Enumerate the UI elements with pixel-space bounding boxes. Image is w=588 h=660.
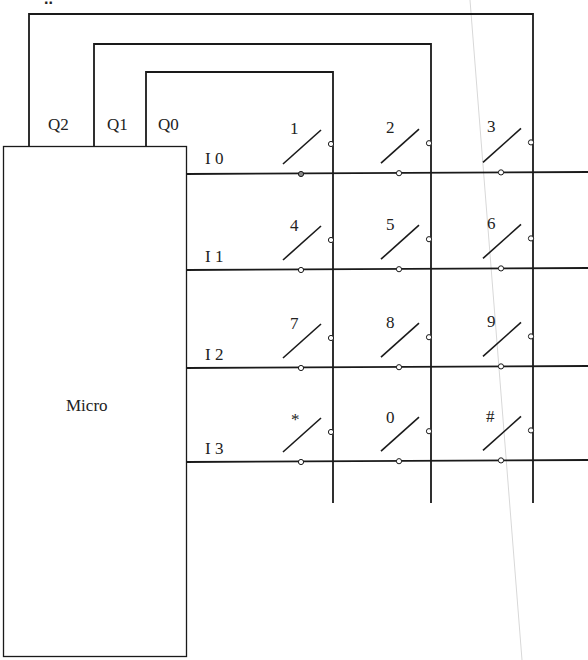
key-label-5: 5 — [386, 216, 395, 233]
row-node — [396, 459, 401, 464]
output-label-q2: Q2 — [48, 116, 69, 133]
contact-node — [328, 429, 333, 434]
contact-node — [328, 335, 333, 340]
output-wire-q0 — [146, 72, 333, 503]
row-node — [498, 364, 503, 369]
row-node — [298, 267, 303, 272]
contact-node — [426, 141, 431, 146]
key-label-2: 2 — [386, 119, 395, 136]
row-node — [498, 458, 503, 463]
key-label-3: 3 — [487, 118, 496, 135]
output-wire-q1 — [94, 44, 431, 503]
input-wire-i1 — [186, 268, 588, 270]
contact-node — [528, 428, 533, 433]
key-label-6: 6 — [487, 215, 496, 232]
input-wire-i0 — [186, 172, 588, 174]
page-fold-line — [470, 0, 522, 660]
output-label-q1: Q1 — [107, 116, 128, 133]
row-node — [498, 266, 503, 271]
row-node — [298, 365, 303, 370]
key-label-8: 8 — [386, 314, 395, 331]
contact-node — [426, 429, 431, 434]
contact-node — [528, 236, 533, 241]
switch-blade — [283, 226, 321, 260]
input-label-i1: I 1 — [205, 248, 223, 265]
row-node — [396, 171, 401, 176]
keypad-matrix-diagram: .. Micro Q2 Q1 Q0 I 0 I 1 I 2 I 3 1 2 3 … — [0, 0, 588, 660]
output-wire-q2 — [29, 14, 533, 503]
input-label-i3: I 3 — [205, 440, 223, 457]
input-wire-i2 — [186, 366, 588, 368]
key-label-1: 1 — [290, 120, 299, 137]
contact-node — [528, 334, 533, 339]
row-node — [396, 365, 401, 370]
switch-blade — [283, 324, 321, 358]
key-label-7: 7 — [290, 315, 299, 332]
key-label-4: 4 — [290, 217, 299, 234]
switch-blade — [283, 130, 321, 164]
input-wire-i3 — [186, 460, 588, 462]
switch-blade — [283, 418, 321, 452]
row-node — [498, 170, 503, 175]
contact-node — [426, 237, 431, 242]
input-label-i0: I 0 — [205, 150, 223, 167]
row-node — [298, 459, 303, 464]
row-node — [298, 171, 303, 176]
input-label-i2: I 2 — [205, 346, 223, 363]
micro-label: Micro — [66, 397, 108, 414]
key-label-star: * — [291, 411, 300, 428]
key-label-0: 0 — [386, 409, 395, 426]
key-label-9: 9 — [487, 313, 496, 330]
contact-node — [328, 141, 333, 146]
output-label-q0: Q0 — [158, 116, 179, 133]
key-label-hash: # — [486, 408, 495, 425]
row-node — [396, 267, 401, 272]
contact-node — [328, 237, 333, 242]
contact-node — [426, 335, 431, 340]
contact-node — [528, 140, 533, 145]
